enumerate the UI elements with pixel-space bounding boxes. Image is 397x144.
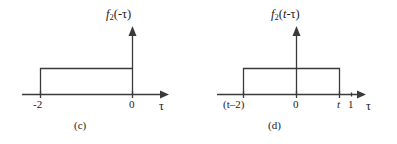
x-axis-arrowhead-c <box>160 91 169 99</box>
x-tick-label-t-minus-2-d: (t–2) <box>223 99 244 110</box>
y-axis-arrowhead-c <box>129 26 137 36</box>
y-axis-arrowhead-d <box>293 26 301 36</box>
x-tick-label-one-d: 1 <box>348 99 354 110</box>
function-close-paren-c: ) <box>127 7 131 21</box>
x-tick-label-minus2-c: -2 <box>33 99 42 110</box>
pulse-outline-d <box>244 69 340 95</box>
x-tick-label-zero-c: 0 <box>129 99 135 110</box>
plot-panel-c: f2(-τ) -2 0 τ (c) <box>0 0 198 144</box>
x-tick-label-zero-d: 0 <box>293 99 299 110</box>
function-close-paren-d: ) <box>296 7 300 21</box>
panel-caption-d: (d) <box>268 120 281 131</box>
panel-caption-c: (c) <box>74 120 86 131</box>
pulse-outline-c <box>41 69 133 95</box>
plot-panel-d: f2(t-τ) (t–2) 0 t 1 τ (d) <box>199 0 397 144</box>
plot-c-graphics <box>0 0 198 144</box>
x-axis-variable-d: τ <box>366 100 371 112</box>
x-tick-label-t-d: t <box>337 99 340 110</box>
function-label-d: f2(t-τ) <box>271 8 300 22</box>
x-axis-variable-c: τ <box>159 100 164 112</box>
function-label-c: f2(-τ) <box>106 8 131 22</box>
figure-root: f2(-τ) -2 0 τ (c) f2(t- <box>0 0 397 144</box>
x-axis-arrowhead-d <box>357 91 366 99</box>
